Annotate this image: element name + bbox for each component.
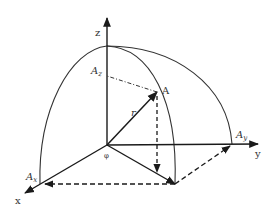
ay-label: Ay [235,129,248,142]
ay-dashed-line [175,146,230,184]
x-axis-label: x [15,195,21,206]
y-axis [107,144,258,145]
az-dashdot-line [107,76,157,92]
x-axis [25,145,107,193]
inner-arc [107,46,175,184]
az-label: Az [90,65,102,78]
outer-arc-right [107,46,232,144]
phi-angle-label: φ [104,152,109,160]
radius-r-label: r [131,107,137,118]
coordinate-diagram: z y x A r φ Az Ay Ax [0,0,276,210]
point-a-label: A [161,85,170,96]
ax-label: Ax [25,171,37,184]
vector-r [107,92,157,145]
y-axis-label: y [254,148,261,159]
projection-line [107,145,175,184]
z-axis-label: z [95,27,100,38]
